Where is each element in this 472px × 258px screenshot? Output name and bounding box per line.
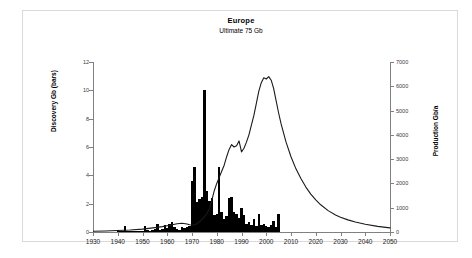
x-axis-tick-label: 2050 — [375, 238, 405, 246]
y-axis-right-label: Production Gb/a — [432, 106, 439, 157]
y-axis-right-tick-label: 4000 — [396, 132, 426, 138]
production-curve-svg — [93, 62, 391, 233]
y-axis-right-tick-label: 5000 — [396, 108, 426, 114]
y-axis-left-tick-label: 2 — [61, 201, 89, 207]
y-axis-right-tick-label: 3000 — [396, 156, 426, 162]
y-axis-right-tick-label: 1000 — [396, 205, 426, 211]
chart-subtitle: Ultimate 75 Gb — [23, 26, 459, 35]
figure-canvas: Europe Ultimate 75 Gb Discovery Gb (bars… — [0, 0, 472, 258]
y-axis-left-tick-label: 4 — [61, 172, 89, 178]
title-block: Europe Ultimate 75 Gb — [23, 16, 459, 35]
y-axis-left-tick-label: 6 — [61, 144, 89, 150]
page-title: Europe — [23, 16, 459, 26]
y-axis-left-tick-label: 12 — [61, 59, 89, 65]
production-line-series — [93, 62, 391, 233]
y-axis-left-tick-label: 8 — [61, 116, 89, 122]
production-curve-path — [93, 77, 390, 232]
y-axis-right-tick-label: 0 — [396, 229, 426, 235]
plot-area: 024681012 01000200030004000500060007000 … — [93, 62, 391, 233]
y-axis-left-tick-label: 10 — [61, 87, 89, 93]
y-axis-left-label: Discovery Gb (bars) — [50, 70, 57, 132]
y-axis-left-tick-label: 0 — [61, 229, 89, 235]
y-axis-right-tick-label: 6000 — [396, 83, 426, 89]
y-axis-right-tick-label: 7000 — [396, 59, 426, 65]
chart-outer-frame: Europe Ultimate 75 Gb Discovery Gb (bars… — [22, 10, 458, 242]
y-axis-right-tick-label: 2000 — [396, 180, 426, 186]
